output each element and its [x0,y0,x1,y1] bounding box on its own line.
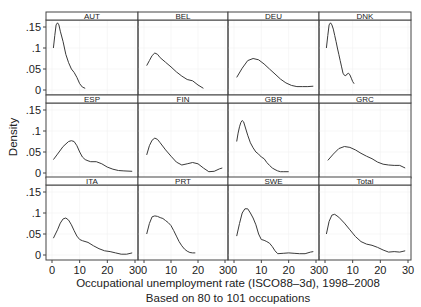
density-curve-esp [53,141,132,172]
panel-label: ESP [84,95,100,104]
panel-frame [319,103,411,178]
x-tick-label: 10 [74,264,86,276]
density-curve-swe [237,209,314,254]
x-tick-label: 0 [231,264,237,276]
panel-dnk: DNK [319,12,411,95]
panel-prt: PRT [138,177,228,260]
y-axes: 0.05.1.150.05.1.150.05.1.15 [26,21,46,261]
x-axis-note: Based on 80 to 101 occupations [146,292,311,304]
density-small-multiples-chart: AUTBELDEUDNKESPFINGBRGRCITAPRTSWETotal 0… [0,0,421,307]
panel-frame [46,103,138,178]
x-axes: 0102030010203001020300102030 [49,260,414,276]
panel-label: DNK [357,12,375,21]
x-tick-label: 30 [129,264,141,276]
y-axis-title: Density [7,118,19,157]
density-curve-ita [53,218,132,254]
panel-label: GRC [356,95,374,104]
panel-label: SWE [264,177,282,186]
x-tick-label: 20 [374,264,386,276]
density-curve-aut [53,23,85,89]
panel-frame [319,185,411,260]
density-curve-dnk [326,23,354,84]
x-tick-label: 0 [141,264,147,276]
panel-aut: AUT [46,12,138,95]
x-tick-label: 0 [322,264,328,276]
y-tick-label: .05 [26,63,41,75]
density-curve-total [326,214,405,252]
panel-label: DEU [265,12,282,21]
y-tick-label: .05 [26,146,41,158]
y-tick-label: .1 [32,42,41,54]
x-axis-title: Occupational unemployment rate (ISCO88–3… [76,277,380,289]
x-tick-label: 30 [310,264,322,276]
x-tick-label: 30 [402,264,414,276]
panel-frame [228,103,319,178]
panel-label: AUT [84,12,100,21]
y-tick-label: .1 [32,125,41,137]
density-curve-bel [147,53,204,88]
panel-ita: ITA [46,177,138,260]
density-curve-grc [328,147,405,169]
panel-grid: AUTBELDEUDNKESPFINGBRGRCITAPRTSWETotal [46,12,411,260]
panel-label: ITA [86,177,99,186]
panel-swe: SWE [228,177,319,260]
density-curve-deu [237,59,314,87]
panel-grc: GRC [319,95,411,178]
panel-deu: DEU [228,12,319,95]
panel-gbr: GBR [228,95,319,178]
panel-label: GBR [265,95,283,104]
y-tick-label: 0 [35,167,41,179]
y-tick-label: .15 [26,21,41,33]
panel-total: Total [319,177,411,260]
x-tick-label: 20 [101,264,113,276]
x-tick-label: 20 [192,264,204,276]
x-tick-label: 20 [283,264,295,276]
y-tick-label: .15 [26,104,41,116]
panel-label: BEL [175,12,191,21]
panel-label: PRT [175,177,191,186]
y-tick-label: .1 [32,207,41,219]
panel-frame [138,185,228,260]
panel-label: FIN [177,95,190,104]
x-tick-label: 30 [219,264,231,276]
panel-fin: FIN [138,95,228,178]
density-curve-gbr [237,121,289,172]
y-tick-label: .05 [26,228,41,240]
y-tick-label: .15 [26,186,41,198]
panel-frame [46,185,138,260]
y-tick-label: 0 [35,84,41,96]
panel-label: Total [357,177,374,186]
panel-bel: BEL [138,12,228,95]
x-tick-label: 10 [165,264,177,276]
x-tick-label: 10 [255,264,267,276]
panel-esp: ESP [46,95,138,178]
x-tick-label: 10 [347,264,359,276]
y-tick-label: 0 [35,249,41,261]
x-tick-label: 0 [49,264,55,276]
density-curve-fin [147,138,223,172]
panel-frame [228,20,319,95]
panel-frame [319,20,411,95]
